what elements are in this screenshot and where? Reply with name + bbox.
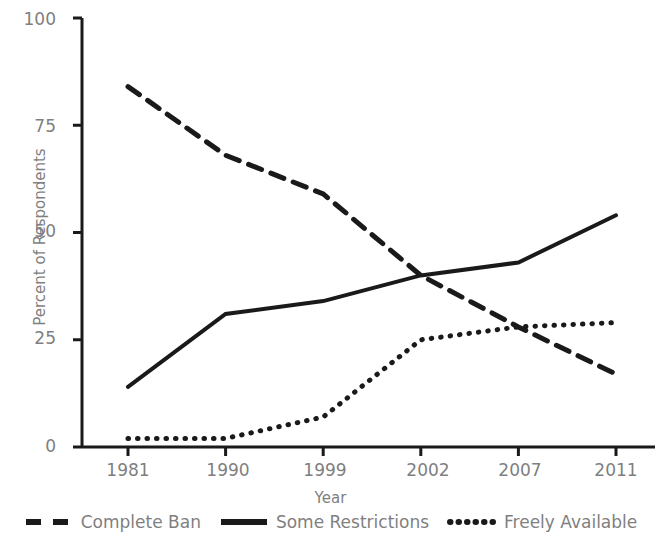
legend-entry-complete-ban: Complete Ban <box>24 514 201 531</box>
legend-swatch-dashed-icon <box>24 516 74 528</box>
legend-label-complete-ban: Complete Ban <box>81 514 201 531</box>
legend-label-freely-available: Freely Available <box>504 514 637 531</box>
legend-entry-freely-available: Freely Available <box>447 514 637 531</box>
legend-entry-some-restrictions: Some Restrictions <box>219 514 429 531</box>
line-chart: Percent of Respondents 100 75 50 25 0 19… <box>0 0 661 536</box>
legend-label-some-restrictions: Some Restrictions <box>276 514 429 531</box>
legend-swatch-solid-icon <box>219 516 269 528</box>
x-axis-title: Year <box>0 489 661 507</box>
series-line-some-restrictions <box>128 215 616 387</box>
plot-area <box>0 0 661 536</box>
legend-swatch-dotted-icon <box>447 516 497 528</box>
chart-legend: Complete Ban Some Restrictions Freely Av… <box>0 508 661 536</box>
